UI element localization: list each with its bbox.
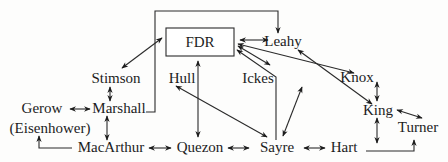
edge-macarthur-eisenhower <box>39 136 72 148</box>
org-diagram: FDR Leahy Stimson Hull Ickes Knox Gerow … <box>0 0 448 162</box>
node-king: King <box>363 102 394 118</box>
node-quezon: Quezon <box>177 139 224 155</box>
node-hart: Hart <box>331 139 358 155</box>
node-turner: Turner <box>398 119 438 135</box>
edge-fdr-stimson <box>122 38 162 68</box>
node-stimson: Stimson <box>91 70 141 86</box>
diagram-canvas: FDR Leahy Stimson Hull Ickes Knox Gerow … <box>0 0 448 162</box>
node-eisenhower: (Eisenhower) <box>10 120 91 137</box>
edge-marshall-leahy <box>146 11 278 112</box>
node-marshall: Marshall <box>92 100 145 116</box>
node-macarthur: MacArthur <box>78 139 145 155</box>
node-leahy: Leahy <box>264 33 302 49</box>
edge-ickes-sayre <box>283 87 302 136</box>
node-gerow: Gerow <box>22 100 63 116</box>
node-sayre: Sayre <box>260 139 294 155</box>
edge-sayre-fdr <box>237 50 276 140</box>
edge-hull-sayre <box>176 86 267 137</box>
edge-hart-turner <box>366 140 414 151</box>
node-hull: Hull <box>169 70 196 86</box>
node-knox: Knox <box>340 69 374 85</box>
node-ickes: Ickes <box>242 70 274 86</box>
node-fdr: FDR <box>185 34 214 50</box>
edge-king-turner <box>397 110 422 118</box>
